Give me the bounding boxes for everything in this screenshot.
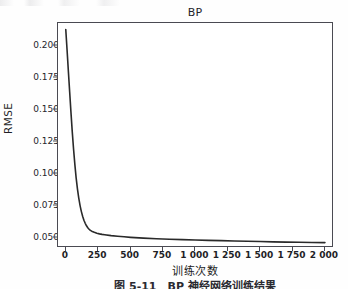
x-tick-mark bbox=[324, 247, 325, 251]
x-tick-mark bbox=[97, 247, 98, 251]
x-tick-label: 0 bbox=[62, 250, 68, 260]
x-tick-label: 250 bbox=[88, 250, 107, 260]
x-tick-mark bbox=[227, 247, 228, 251]
x-tick-label: 1 500 bbox=[245, 250, 273, 260]
chart-title: BP bbox=[57, 6, 333, 19]
figure-page: BP RMSE 0.2000.1750.1500.1250.1000.0750.… bbox=[0, 0, 348, 289]
x-tick-mark bbox=[292, 247, 293, 251]
x-tick-mark bbox=[130, 247, 131, 251]
chart-figure: BP RMSE 0.2000.1750.1500.1250.1000.0750.… bbox=[0, 0, 348, 289]
x-tick-mark bbox=[194, 247, 195, 251]
x-tick-label: 1 750 bbox=[277, 250, 305, 260]
x-tick-label: 500 bbox=[120, 250, 139, 260]
x-tick-mark bbox=[259, 247, 260, 251]
x-tick-label: 2 000 bbox=[310, 250, 338, 260]
x-axis-label: 训练次数 bbox=[57, 262, 333, 278]
rmse-curve bbox=[58, 23, 332, 246]
plot-frame bbox=[57, 22, 333, 247]
x-tick-label: 750 bbox=[153, 250, 172, 260]
figure-caption: 图 5-11 BP 神经网络训练结果 bbox=[57, 280, 333, 289]
x-tick-mark bbox=[65, 247, 66, 251]
x-tick-label: 1 250 bbox=[213, 250, 241, 260]
x-tick-label: 1 000 bbox=[180, 250, 208, 260]
x-tick-mark bbox=[162, 247, 163, 251]
series-line bbox=[66, 29, 325, 242]
plot-area bbox=[58, 23, 332, 246]
